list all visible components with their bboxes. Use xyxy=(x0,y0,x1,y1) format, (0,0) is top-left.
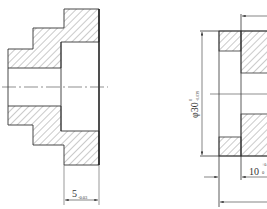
right-section-view: φ30 0 -0.039 10 +0.1 0 xyxy=(188,14,267,207)
upper-small-hatch xyxy=(219,31,241,51)
upper-main-hatch xyxy=(241,31,267,73)
length-tolerance-lower: 0 xyxy=(262,170,265,175)
diameter-tolerance-lower: -0.039 xyxy=(195,91,200,101)
left-section-view: 5 -0.03 xyxy=(2,9,108,205)
length-dimension-value: 10 xyxy=(249,166,259,177)
lower-main-hatch xyxy=(241,114,267,156)
width-dimension-tolerance: -0.03 xyxy=(78,195,88,200)
technical-drawing: 5 -0.03 φ30 0 -0.039 10 +0.1 0 xyxy=(0,0,267,209)
diameter-tolerance-upper: 0 xyxy=(188,98,193,101)
upper-hatched-section xyxy=(8,9,99,68)
length-tolerance-upper: +0.1 xyxy=(262,162,267,167)
lower-small-hatch xyxy=(219,137,241,156)
width-dimension-value: 5 xyxy=(72,188,77,199)
lower-hatched-section xyxy=(8,106,99,165)
diameter-dimension-value: φ30 xyxy=(189,102,200,118)
